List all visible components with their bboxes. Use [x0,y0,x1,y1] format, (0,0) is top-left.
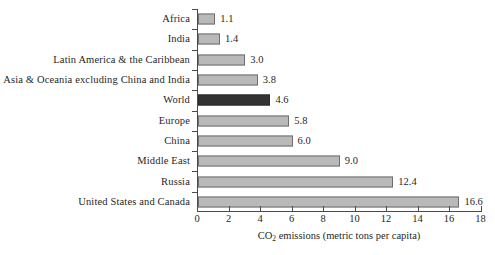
x-axis-tick [449,206,450,212]
x-axis-tick-label: 4 [257,214,262,225]
y-axis-tick [192,90,197,91]
bar [198,176,393,187]
x-axis-title-pre: CO [258,230,273,241]
x-axis-tick [292,206,293,212]
y-axis-tick [192,111,197,112]
y-axis-tick [192,171,197,172]
x-axis-tick-label: 2 [226,214,231,225]
bar [198,75,258,86]
bar-row: China6.0 [0,131,495,151]
x-axis-tick [323,206,324,212]
bar-value-label: 5.8 [294,115,307,126]
bar-value-label: 1.1 [220,14,233,25]
x-axis-tick [229,206,230,212]
category-label: Middle East [137,156,190,167]
bar-value-label: 9.0 [345,156,358,167]
category-label: China [164,136,190,147]
category-label: World [163,95,190,106]
x-axis-tick-label: 18 [475,214,486,225]
bar [198,14,215,25]
bar [198,115,289,126]
bar [198,54,245,65]
y-axis-tick [192,151,197,152]
y-axis-tick [192,192,197,193]
bar-row: United States and Canada16.6 [0,192,495,212]
category-label: Asia & Oceania excluding China and India [3,75,190,86]
bar-row: Europe5.8 [0,111,495,131]
x-axis-tick-label: 8 [320,214,325,225]
bar-row: Africa1.1 [0,9,495,29]
bar-value-label: 6.0 [298,136,311,147]
bar [198,196,459,207]
bar-row: Asia & Oceania excluding China and India… [0,70,495,90]
x-axis-title: CO2 emissions (metric tons per capita) [197,231,481,242]
y-axis-tick [192,70,197,71]
bar-value-label: 3.0 [250,54,263,65]
category-label: Latin America & the Caribbean [53,54,190,65]
category-label: United States and Canada [78,197,190,208]
x-axis-tick-label: 6 [289,214,294,225]
x-axis-tick [386,206,387,212]
category-label: Europe [159,115,190,126]
x-axis-tick [418,206,419,212]
chart-figure: Africa1.1India1.4Latin America & the Car… [0,0,495,255]
x-axis-tick [355,206,356,212]
bar [198,156,340,167]
y-axis-tick [192,9,197,10]
x-axis-tick-label: 12 [381,214,392,225]
bar-row: Middle East9.0 [0,151,495,171]
x-axis-tick [197,206,198,212]
bar [198,34,220,45]
x-axis-tick-label: 14 [412,214,423,225]
bar [198,135,293,146]
bar-row: Latin America & the Caribbean3.0 [0,50,495,70]
plot-area: Africa1.1India1.4Latin America & the Car… [0,0,495,255]
bar-highlighted [198,95,270,106]
y-axis-tick [192,131,197,132]
category-label: Africa [162,14,190,25]
bar-row: Russia12.4 [0,171,495,191]
x-axis-tick-label: 16 [444,214,455,225]
bar-row: World4.6 [0,90,495,110]
y-axis-tick [192,29,197,30]
x-axis-title-post: emissions (metric tons per capita) [276,230,420,241]
bar-value-label: 3.8 [263,75,276,86]
category-label: Russia [161,176,190,187]
bar-row: India1.4 [0,29,495,49]
x-axis-tick-label: 10 [349,214,360,225]
x-axis-tick [260,206,261,212]
x-axis-tick-label: 0 [194,214,199,225]
category-label: India [168,34,190,45]
x-axis-tick [481,206,482,212]
bar-value-label: 4.6 [275,95,288,106]
y-axis-tick [192,50,197,51]
bar-value-label: 12.4 [398,176,416,187]
bar-value-label: 1.4 [225,34,238,45]
x-axis-title-subscript: 2 [272,234,276,243]
